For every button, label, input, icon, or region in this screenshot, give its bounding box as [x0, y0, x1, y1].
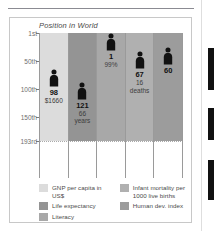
y-axis-tick-label: 193rd: [20, 138, 37, 145]
y-axis-tick-label: 1st: [28, 30, 37, 37]
legend-label: Human dev. index: [133, 202, 183, 210]
horizontal-rule: [8, 8, 194, 9]
chart-legend: GNP per capita in US$Life expectancyLite…: [39, 184, 187, 221]
chart-title: Position in World: [39, 21, 98, 30]
person-pictogram-icon: [134, 51, 146, 69]
legend-swatch: [120, 184, 129, 192]
legend-swatch: [39, 202, 48, 210]
plot-wrapper: 1st50th100th150th193rd 98$166012166years…: [39, 33, 183, 178]
legend-item[interactable]: Human dev. index: [120, 202, 187, 210]
legend-label: Infant mortality per1000 live births: [133, 184, 185, 199]
person-pictogram-icon: [105, 33, 117, 51]
y-axis-tick-label: 50th: [24, 57, 37, 64]
legend-item[interactable]: Literacy: [39, 213, 114, 221]
legend-swatch: [120, 202, 129, 210]
chart-column[interactable]: 60: [154, 33, 183, 178]
person-pictogram-icon: [76, 82, 88, 100]
person-pictogram-icon: [48, 69, 60, 87]
legend-label: Life expectancy: [52, 202, 96, 210]
legend-item[interactable]: GNP per capita in US$: [39, 184, 114, 199]
y-axis-tick-label: 150th: [21, 113, 37, 120]
legend-label: GNP per capita in US$: [52, 184, 114, 199]
person-pictogram-icon: [162, 47, 174, 65]
legend-item[interactable]: Infant mortality per1000 live births: [120, 184, 187, 199]
plot-area: 98$166012166years199%6716deaths60: [39, 33, 183, 178]
legend-column-left: GNP per capita in US$Life expectancyLite…: [39, 184, 114, 221]
legend-item[interactable]: Life expectancy: [39, 202, 114, 210]
clipped-header-text: • • •••••• •••••: [10, 0, 47, 2]
data-point-rank-label: 60: [148, 66, 188, 75]
legend-column-right: Infant mortality per1000 live birthsHuma…: [120, 184, 187, 221]
chart-figure: Position in World 1st50th100th150th193rd…: [9, 17, 192, 223]
vertical-scrollbar[interactable]: [201, 0, 215, 231]
legend-swatch: [39, 184, 48, 192]
scrollbar-thumb-segment[interactable]: [208, 48, 214, 90]
legend-label: Literacy: [52, 213, 74, 221]
scrollbar-thumb-segment[interactable]: [208, 160, 214, 200]
scrollbar-thumb-segment[interactable]: [208, 108, 214, 140]
legend-swatch: [39, 213, 48, 221]
data-point-marker[interactable]: 60: [148, 47, 188, 75]
